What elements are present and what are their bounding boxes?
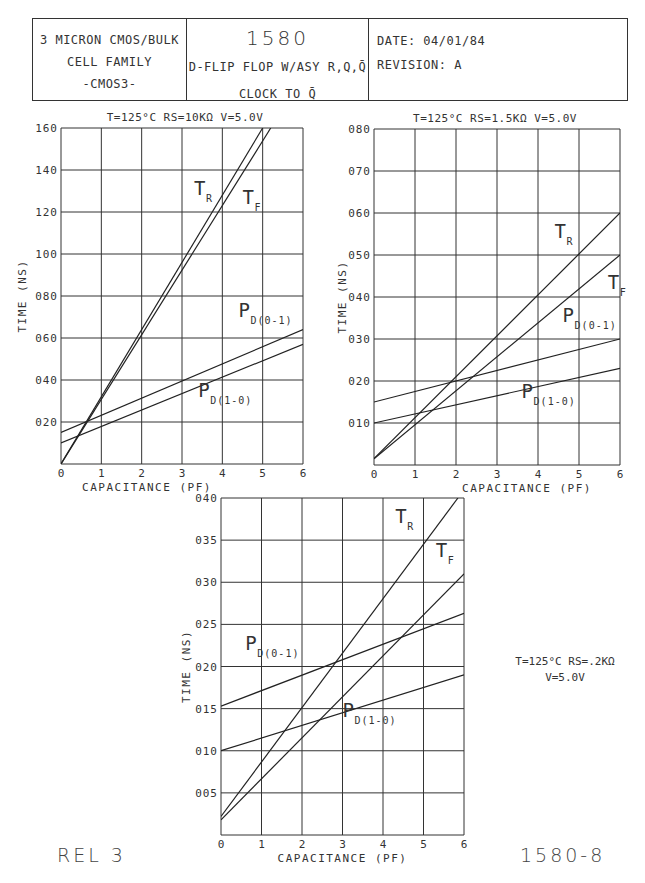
y-tick-label: 050 xyxy=(348,249,371,262)
y-tick-label: 160 xyxy=(35,122,58,135)
date-label: DATE: 04/01/84 xyxy=(377,29,627,53)
curve-label: P xyxy=(245,632,256,654)
curve-label: T xyxy=(194,177,205,199)
y-tick-label: 040 xyxy=(35,374,58,387)
x-tick-label: 5 xyxy=(259,467,266,480)
x-tick-label: 1 xyxy=(258,838,265,851)
curve-label-subscript: R xyxy=(407,521,414,532)
curve-label: P xyxy=(343,699,354,721)
y-tick-label: 080 xyxy=(35,290,58,303)
x-axis-label: CAPACITANCE (PF) xyxy=(462,482,592,495)
y-tick-label: 005 xyxy=(195,787,218,800)
y-axis-label: TIME (NS) xyxy=(180,630,193,703)
x-tick-label: 1 xyxy=(412,468,419,481)
y-axis-label: TIME (NS) xyxy=(16,259,29,332)
curve-label: P xyxy=(238,299,249,321)
curve-label: T xyxy=(436,539,447,561)
curve-label-subscript: D(0-1) xyxy=(257,648,299,659)
y-tick-label: 025 xyxy=(195,618,218,631)
y-axis-label: TIME (NS) xyxy=(336,260,349,333)
x-tick-label: 3 xyxy=(494,468,501,481)
x-tick-label: 4 xyxy=(219,467,226,480)
chart-3-conditions: T=125°C RS=.2KΩ V=5.0V xyxy=(495,654,635,686)
y-tick-label: 060 xyxy=(35,332,58,345)
curve-label-subscript: D(1-0) xyxy=(210,395,252,406)
cell-path: CLOCK TO Q̄ xyxy=(187,87,368,101)
x-tick-label: 1 xyxy=(98,467,105,480)
x-tick-label: 4 xyxy=(380,838,387,851)
chart-rs-1-5k: 0100200300400500600700800123456CAPACITAN… xyxy=(320,105,645,500)
y-tick-label: 100 xyxy=(35,248,58,261)
cell-info: 1580 D-FLIP FLOP W/ASY R,Q,Q̄ CLOCK TO Q… xyxy=(187,19,369,100)
grid xyxy=(221,498,464,835)
title-block: 3 MICRON CMOS/BULK CELL FAMILY -CMOS3- 1… xyxy=(32,18,628,101)
x-tick-label: 6 xyxy=(617,468,624,481)
curve-label-subscript: R xyxy=(566,236,573,247)
y-tick-label: 020 xyxy=(348,375,371,388)
y-tick-label: 030 xyxy=(195,576,218,589)
y-tick-label: 140 xyxy=(35,164,58,177)
curve-label: P xyxy=(198,379,209,401)
curve-label: T xyxy=(608,271,619,293)
curve-label-subscript: D(1-0) xyxy=(355,715,397,726)
conditions-line-2: V=5.0V xyxy=(495,670,635,686)
chart-rs-0-2k: 0050100150200250300350400123456CAPACITAN… xyxy=(150,485,480,865)
curve-label: P xyxy=(563,304,574,326)
curve-label-subscript: F xyxy=(448,555,455,566)
y-tick-label: 035 xyxy=(195,534,218,547)
x-tick-label: 5 xyxy=(420,838,427,851)
y-tick-label: 070 xyxy=(348,165,371,178)
curve-label-subscript: D(1-0) xyxy=(534,396,576,407)
x-tick-label: 2 xyxy=(453,468,460,481)
x-tick-label: 6 xyxy=(300,467,307,480)
y-tick-label: 060 xyxy=(348,207,371,220)
x-tick-label: 0 xyxy=(58,467,65,480)
conditions-line-1: T=125°C RS=.2KΩ xyxy=(495,654,635,670)
cell-description: D-FLIP FLOP W/ASY R,Q,Q̄ xyxy=(187,57,368,77)
revision-info: DATE: 04/01/84 REVISION: A xyxy=(369,19,627,100)
curve-label-subscript: D(0-1) xyxy=(250,315,292,326)
curve-label: P xyxy=(522,380,533,402)
curve-label: T xyxy=(554,220,565,242)
curve-label: T xyxy=(243,186,254,208)
chart-rs-10k: 0200400600801001201401600123456CAPACITAN… xyxy=(0,105,320,500)
y-tick-label: 020 xyxy=(195,661,218,674)
y-tick-label: 020 xyxy=(35,416,58,429)
revision-label: REVISION: A xyxy=(377,53,627,77)
x-tick-label: 5 xyxy=(576,468,583,481)
chart-title: T=125°C RS=10KΩ V=5.0V xyxy=(107,111,264,124)
process-info: 3 MICRON CMOS/BULK CELL FAMILY -CMOS3- xyxy=(33,19,187,100)
x-tick-label: 3 xyxy=(179,467,186,480)
y-tick-label: 010 xyxy=(195,745,218,758)
y-tick-label: 040 xyxy=(348,291,371,304)
y-tick-label: 040 xyxy=(195,492,218,505)
curve-label-subscript: D(0-1) xyxy=(575,320,617,331)
x-tick-label: 2 xyxy=(138,467,145,480)
grid xyxy=(61,128,303,464)
y-tick-label: 120 xyxy=(35,206,58,219)
curve-label-subscript: F xyxy=(255,202,262,213)
y-tick-label: 010 xyxy=(348,417,371,430)
page-id: 1580-8 xyxy=(520,844,605,866)
process-line-2: CELL FAMILY xyxy=(33,51,186,73)
x-tick-label: 3 xyxy=(339,838,346,851)
curve-label-subscript: F xyxy=(620,287,627,298)
x-tick-label: 6 xyxy=(461,838,468,851)
curve-label-subscript: R xyxy=(206,193,213,204)
curve-label: T xyxy=(395,505,406,527)
y-tick-label: 015 xyxy=(195,703,218,716)
x-tick-label: 4 xyxy=(535,468,542,481)
x-tick-label: 2 xyxy=(299,838,306,851)
x-tick-label: 0 xyxy=(371,468,378,481)
x-axis-label: CAPACITANCE (PF) xyxy=(278,852,408,865)
process-line-3: -CMOS3- xyxy=(33,73,186,95)
y-tick-label: 030 xyxy=(348,333,371,346)
y-tick-label: 080 xyxy=(348,123,371,136)
process-line-1: 3 MICRON CMOS/BULK xyxy=(33,29,186,51)
cell-number: 1580 xyxy=(187,25,368,51)
x-tick-label: 0 xyxy=(218,838,225,851)
release-label: REL 3 xyxy=(57,844,126,866)
chart-title: T=125°C RS=1.5KΩ V=5.0V xyxy=(413,112,577,125)
